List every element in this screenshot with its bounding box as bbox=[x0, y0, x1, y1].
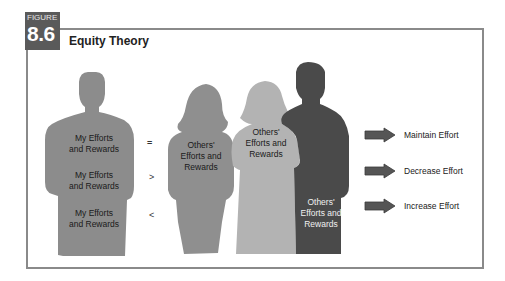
other2-label-line1: Others' bbox=[238, 127, 294, 138]
other2-label: Others' Efforts and Rewards bbox=[238, 127, 294, 160]
other3-label: Others' Efforts and Rewards bbox=[296, 197, 346, 230]
me-label-2-line2: and Rewards bbox=[64, 181, 124, 192]
less-than-symbol: < bbox=[149, 210, 154, 220]
other2-label-line2: Efforts and bbox=[238, 138, 294, 149]
me-label-3: My Efforts and Rewards bbox=[64, 208, 124, 230]
person-other2-silhouette bbox=[232, 81, 301, 254]
right-arrow-icon bbox=[364, 127, 396, 143]
outcome-increase: Increase Effort bbox=[364, 198, 459, 214]
other3-label-line2: Efforts and bbox=[296, 208, 346, 219]
outcome-decrease: Decrease Effort bbox=[364, 163, 463, 179]
me-label-2: My Efforts and Rewards bbox=[64, 170, 124, 192]
other1-label: Others' Efforts and Rewards bbox=[172, 140, 230, 173]
right-arrow-icon bbox=[364, 163, 396, 179]
me-label-1: My Efforts and Rewards bbox=[64, 133, 124, 155]
outcome-maintain-label: Maintain Effort bbox=[404, 130, 459, 140]
me-label-1-line1: My Efforts bbox=[64, 133, 124, 144]
other3-label-line3: Rewards bbox=[296, 219, 346, 230]
equal-symbol: = bbox=[147, 138, 152, 148]
other2-label-line3: Rewards bbox=[238, 149, 294, 160]
outcome-decrease-label: Decrease Effort bbox=[404, 166, 463, 176]
other1-label-line3: Rewards bbox=[172, 162, 230, 173]
me-label-3-line1: My Efforts bbox=[64, 208, 124, 219]
outcome-increase-label: Increase Effort bbox=[404, 201, 459, 211]
me-label-1-line2: and Rewards bbox=[64, 144, 124, 155]
other1-label-line1: Others' bbox=[172, 140, 230, 151]
other3-label-line1: Others' bbox=[296, 197, 346, 208]
outcome-maintain: Maintain Effort bbox=[364, 127, 459, 143]
other1-label-line2: Efforts and bbox=[172, 151, 230, 162]
me-label-3-line2: and Rewards bbox=[64, 219, 124, 230]
me-label-2-line1: My Efforts bbox=[64, 170, 124, 181]
greater-than-symbol: > bbox=[149, 172, 154, 182]
right-arrow-icon bbox=[364, 198, 396, 214]
